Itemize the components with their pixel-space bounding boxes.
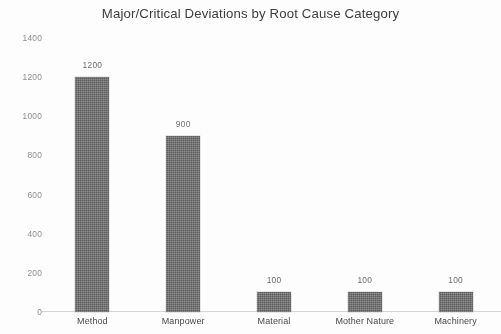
bar-value-label: 100 xyxy=(267,275,282,285)
bar-group: 100 xyxy=(320,38,410,312)
x-tick-label-material: Material xyxy=(229,316,319,326)
bar-value-label: 100 xyxy=(357,275,372,285)
bar-group: 900 xyxy=(138,38,228,312)
y-tick-label: 0 xyxy=(2,307,42,317)
bar[interactable] xyxy=(348,292,382,312)
bar-value-label: 1200 xyxy=(83,60,103,70)
bar-group: 100 xyxy=(229,38,319,312)
y-tick-label: 400 xyxy=(2,229,42,239)
bar-value-label: 100 xyxy=(448,275,463,285)
x-tick-label-method: Method xyxy=(47,316,137,326)
bar[interactable] xyxy=(75,77,109,312)
y-tick-label: 600 xyxy=(2,190,42,200)
bar-value-label: 900 xyxy=(176,119,191,129)
x-tick-label-manpower: Manpower xyxy=(138,316,228,326)
bar-group: 100 xyxy=(411,38,501,312)
y-tick-label: 800 xyxy=(2,150,42,160)
y-axis: 1400 1200 1000 800 600 400 200 0 xyxy=(0,0,47,334)
bar[interactable] xyxy=(257,292,291,312)
x-tick-label-machinery: Machinery xyxy=(411,316,501,326)
plot-area: 1200 900 100 100 100 xyxy=(47,38,501,312)
bar[interactable] xyxy=(439,292,473,312)
y-tick-label: 1200 xyxy=(2,72,42,82)
bar-group: 1200 xyxy=(47,38,137,312)
y-tick-label: 1400 xyxy=(2,33,42,43)
y-tick-label: 200 xyxy=(2,268,42,278)
bar-chart: Major/Critical Deviations by Root Cause … xyxy=(0,0,501,334)
bar[interactable] xyxy=(166,136,200,312)
x-tick-label-mother-nature: Mother Nature xyxy=(320,316,410,326)
y-tick-label: 1000 xyxy=(2,111,42,121)
chart-title: Major/Critical Deviations by Root Cause … xyxy=(0,6,501,21)
